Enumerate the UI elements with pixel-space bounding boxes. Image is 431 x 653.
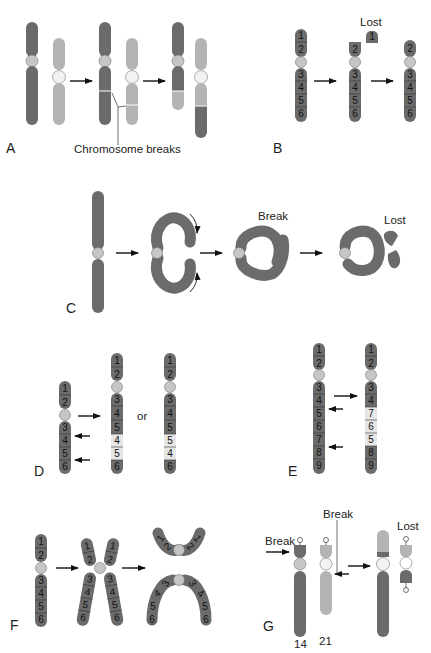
svg-text:5: 5 [352, 95, 358, 106]
panel-letter-e: E [288, 463, 297, 479]
svg-text:1: 1 [62, 383, 68, 394]
svg-text:7: 7 [368, 408, 374, 419]
panel-f: 1 2 3 4 5 6 1 2 1 2 [10, 532, 209, 633]
svg-text:1: 1 [167, 355, 173, 366]
svg-text:5: 5 [298, 95, 304, 106]
svg-text:4: 4 [114, 408, 120, 419]
svg-text:3: 3 [407, 69, 413, 80]
svg-text:7: 7 [316, 434, 322, 445]
svg-text:6: 6 [352, 108, 358, 119]
chromosome-d-option1: 1 2 3 4 5 4 5 6 [111, 353, 123, 474]
svg-text:1: 1 [114, 355, 120, 366]
svg-text:1: 1 [38, 536, 44, 547]
panel-letter-d: D [34, 463, 44, 479]
ring-chromosome [340, 231, 380, 270]
svg-text:1: 1 [316, 344, 322, 355]
svg-text:2: 2 [368, 358, 374, 369]
svg-text:6: 6 [203, 614, 209, 625]
break-pointer-line [112, 93, 126, 145]
svg-text:2: 2 [316, 358, 322, 369]
chromosome-14 [294, 538, 306, 638]
svg-text:2: 2 [298, 44, 304, 55]
chromosome-c-crossing [234, 231, 284, 275]
svg-text:9: 9 [316, 460, 322, 471]
svg-text:6: 6 [316, 421, 322, 432]
chromosome-d-option2: 1 2 3 4 5 5 4 6 [164, 353, 176, 474]
svg-text:2: 2 [114, 369, 120, 380]
svg-text:5: 5 [114, 422, 120, 433]
panel-d: 1 2 3 4 5 6 1 2 3 4 5 4 5 [34, 353, 176, 479]
panel-letter-a: A [6, 140, 16, 156]
svg-text:2: 2 [167, 369, 173, 380]
panel-letter-b: B [273, 140, 282, 156]
svg-text:5: 5 [150, 601, 156, 612]
svg-text:8: 8 [368, 447, 374, 458]
break-label-left: Break [265, 535, 295, 547]
svg-text:5: 5 [114, 448, 120, 459]
svg-text:6: 6 [167, 461, 173, 472]
panel-c: Break Lost C [66, 191, 407, 316]
chromosome-c-linear [92, 191, 104, 313]
svg-text:4: 4 [298, 82, 304, 93]
panel-letter-f: F [10, 617, 19, 633]
svg-text:2: 2 [62, 397, 68, 408]
svg-text:3: 3 [298, 69, 304, 80]
svg-text:3: 3 [352, 69, 358, 80]
svg-text:1: 1 [298, 30, 304, 41]
break-label-top: Break [323, 508, 353, 520]
isochromosome-short-arms: 1 2 2 1 [154, 532, 204, 555]
svg-text:3: 3 [316, 382, 322, 393]
svg-text:2: 2 [38, 550, 44, 561]
chromosome-light-a1 [53, 38, 66, 125]
svg-text:2: 2 [352, 44, 358, 55]
lost-label: Lost [360, 16, 383, 28]
chromosome-e-start: 1 2 3 4 5 6 7 8 9 [313, 343, 325, 474]
svg-text:5: 5 [407, 95, 413, 106]
chromosome-light-a2 [126, 38, 139, 125]
chromosome-dark-a2 [99, 22, 111, 125]
svg-text:4: 4 [407, 82, 413, 93]
lost-fragments-c [384, 231, 400, 269]
svg-text:3: 3 [114, 394, 120, 405]
chromosome-b-broken: 2 3 4 5 6 [349, 42, 361, 122]
svg-text:4: 4 [167, 408, 173, 419]
svg-text:5: 5 [38, 601, 44, 612]
panel-g: Break Break Lost [263, 508, 420, 650]
chromosome-f-x: 1 2 1 2 3 4 5 6 [76, 537, 124, 627]
svg-text:4: 4 [167, 448, 173, 459]
svg-text:6: 6 [298, 108, 304, 119]
robertsonian-chromosome [377, 530, 390, 637]
chromosome-d-start: 1 2 3 4 5 6 [59, 381, 71, 474]
svg-text:5: 5 [316, 408, 322, 419]
lost-label-g: Lost [397, 520, 420, 532]
chromosome-derivative-a4 [195, 38, 208, 138]
chromosome-f-start: 1 2 3 4 5 6 [35, 534, 47, 627]
svg-text:5: 5 [62, 448, 68, 459]
svg-text:4: 4 [62, 435, 68, 446]
svg-text:6: 6 [114, 461, 120, 472]
svg-text:9: 9 [368, 460, 374, 471]
chromosome-14-label: 14 [294, 638, 307, 650]
panel-e: 1 2 3 4 5 6 7 8 9 1 2 3 4 [288, 343, 377, 479]
svg-text:6: 6 [368, 421, 374, 432]
chromosome-b-end: 2 3 4 5 6 [404, 40, 416, 122]
chromosome-breaks-label: Chromosome breaks [74, 143, 181, 155]
chromosome-21-label: 21 [319, 635, 332, 647]
svg-text:1: 1 [368, 344, 374, 355]
chromosome-diagram: A Chromosome breaks 1 2 3 4 5 6 [0, 0, 431, 653]
svg-text:4: 4 [114, 435, 120, 446]
svg-text:3: 3 [167, 394, 173, 405]
isochromosome-long-arms: 3 4 5 6 3 4 5 6 [149, 575, 209, 626]
svg-text:6: 6 [149, 614, 155, 625]
svg-text:6: 6 [407, 108, 413, 119]
lost-small-chromosome [400, 537, 412, 593]
svg-text:3: 3 [62, 422, 68, 433]
chromosome-e-inverted: 1 2 3 4 7 6 5 8 9 [365, 343, 377, 474]
svg-text:5: 5 [202, 601, 208, 612]
svg-text:5: 5 [368, 434, 374, 445]
chromosome-dark-a1 [26, 22, 38, 125]
lost-label-c: Lost [384, 214, 407, 226]
svg-text:3: 3 [368, 382, 374, 393]
svg-text:6: 6 [38, 614, 44, 625]
svg-text:5: 5 [167, 435, 173, 446]
